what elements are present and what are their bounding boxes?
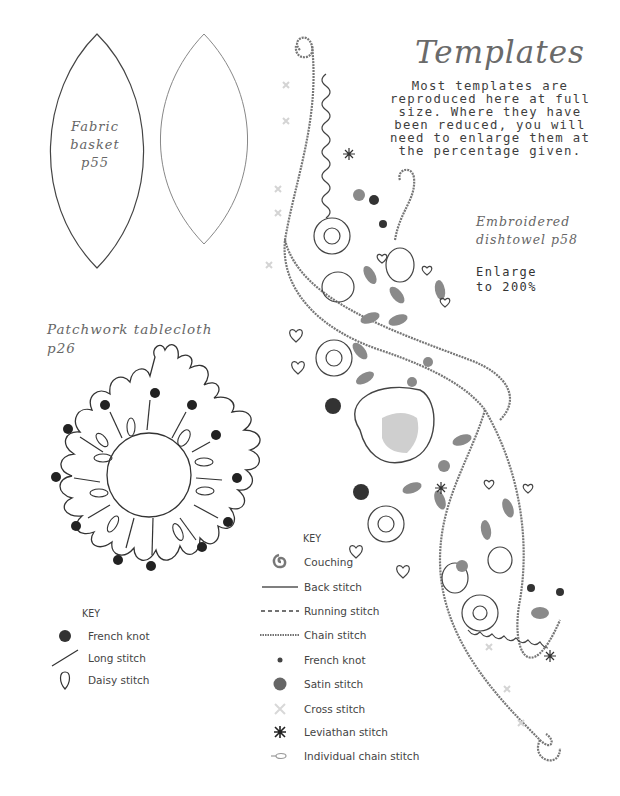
key-item-individual-chain-stitch: Individual chain stitch	[256, 746, 419, 766]
dashed-line-icon	[256, 601, 304, 621]
dishtowel-key-title: KEY	[303, 532, 321, 544]
filled-dot-icon	[42, 626, 88, 646]
solid-line-icon	[256, 577, 304, 597]
owl-body-shade	[382, 413, 418, 453]
spiral-icon	[256, 552, 304, 572]
paisley-shapes	[350, 189, 549, 619]
key-item-daisy-stitch: Daisy stitch	[42, 670, 150, 690]
key-item-couching: Couching	[256, 552, 353, 572]
wavy-lines	[322, 74, 548, 648]
patchwork-tablecloth-label: Patchwork tablecloth p26	[47, 320, 212, 358]
key-item-back-stitch: Back stitch	[256, 577, 362, 597]
key-item-satin-stitch: Satin stitch	[256, 674, 363, 694]
large-dot-icon	[256, 674, 304, 694]
fabric-basket-label: Fabric basket p55	[55, 118, 135, 172]
dark-knots	[325, 195, 564, 596]
diagonal-line-icon	[42, 648, 88, 668]
key-item-leviathan-stitch: Leviathan stitch	[256, 722, 388, 742]
teardrop-outline-icon	[42, 670, 88, 690]
cross-icon	[256, 699, 304, 719]
key-item-chain-stitch: Chain stitch	[256, 625, 366, 645]
key-item-running-stitch: Running stitch	[256, 601, 379, 621]
key-item-cross-stitch: Cross stitch	[256, 699, 365, 719]
daisy-stitches	[90, 418, 214, 542]
enlarge-note: Enlarge to 200%	[476, 265, 537, 295]
key-item-french-knot-small: French knot	[256, 650, 366, 670]
long-stitches	[74, 400, 222, 555]
small-dot-icon	[256, 650, 304, 670]
key-item-french-knot: French knot	[42, 626, 150, 646]
embroidered-dishtowel-label: Embroidered dishtowel p58	[476, 213, 578, 249]
asterisk-icon	[256, 722, 304, 742]
key-item-long-stitch: Long stitch	[42, 648, 146, 668]
chain-loop-icon	[256, 746, 304, 766]
tablecloth-key-title: KEY	[82, 607, 100, 619]
dotted-line-icon	[256, 625, 304, 645]
patchwork-flower-template	[60, 345, 260, 561]
